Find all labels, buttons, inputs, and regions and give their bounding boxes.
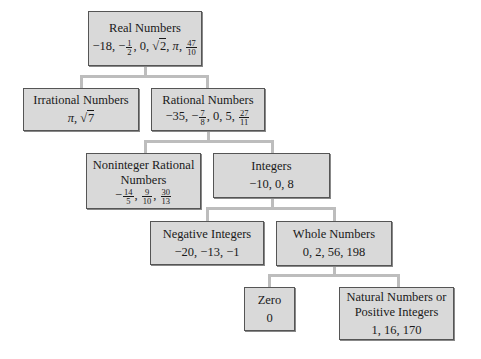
fraction: 145: [123, 188, 134, 205]
node-values: −35, −78, 0, 5, 2711: [166, 109, 251, 126]
node-negative-integers: Negative Integers −20, −13, −1: [150, 221, 264, 265]
fraction: 2711: [239, 109, 250, 126]
node-values: 0: [266, 311, 272, 326]
connector-rational-horizontal: [144, 140, 274, 143]
fraction: 12: [126, 39, 132, 56]
node-noninteger-rational-numbers: Noninteger Rational Numbers −145, 910, 3…: [86, 153, 201, 209]
node-rational-numbers: Rational Numbers −35, −78, 0, 5, 2711: [151, 88, 265, 131]
node-integers: Integers −10, 0, 8: [213, 153, 330, 198]
node-title: Real Numbers: [109, 21, 181, 36]
node-values: −10, 0, 8: [249, 177, 294, 192]
connector-to-whole: [333, 207, 336, 221]
fraction: 910: [142, 188, 153, 205]
node-title: Rational Numbers: [162, 93, 253, 108]
node-natural-numbers: Natural Numbers or Positive Integers 1, …: [339, 287, 454, 340]
connector-to-rational: [206, 75, 209, 88]
connector-to-noninteger: [144, 140, 147, 153]
connector-real-horizontal: [80, 75, 209, 78]
node-title-line1: Noninteger Rational: [93, 158, 195, 173]
node-whole-numbers: Whole Numbers 0, 2, 56, 198: [276, 221, 392, 266]
fraction: 4710: [186, 39, 197, 56]
sqrt-symbol: √7: [80, 110, 94, 125]
connector-to-natural: [397, 274, 400, 287]
node-title: Zero: [258, 293, 282, 308]
fraction: 78: [199, 109, 205, 126]
node-title: Integers: [251, 159, 291, 174]
node-values: −145, 910, 3013: [115, 188, 172, 205]
fraction: 3013: [161, 188, 172, 205]
node-title: Whole Numbers: [293, 227, 375, 242]
node-title: Negative Integers: [163, 227, 252, 242]
sqrt-symbol: √2: [152, 38, 166, 53]
node-title-line2: Positive Integers: [355, 305, 439, 320]
node-real-numbers: Real Numbers −18, −12, 0, √2, π, 4710: [88, 11, 202, 66]
node-values: −20, −13, −1: [175, 245, 240, 260]
connector-to-integers: [271, 140, 274, 153]
node-values: 0, 2, 56, 198: [303, 245, 366, 260]
node-values: −18, −12, 0, √2, π, 4710: [92, 39, 197, 56]
node-irrational-numbers: Irrational Numbers π, √7: [23, 88, 139, 131]
node-title: Irrational Numbers: [33, 93, 128, 108]
connector-to-irrational: [80, 75, 83, 88]
node-title-line2: Numbers: [121, 173, 167, 188]
node-title-line1: Natural Numbers or: [347, 290, 447, 305]
node-values: π, √7: [68, 111, 95, 126]
node-values: 1, 16, 170: [372, 323, 422, 338]
connector-to-negative: [206, 207, 209, 221]
connector-whole-horizontal: [268, 274, 400, 277]
connector-integers-horizontal: [206, 207, 336, 210]
node-zero: Zero 0: [244, 287, 295, 331]
connector-to-zero: [268, 274, 271, 287]
